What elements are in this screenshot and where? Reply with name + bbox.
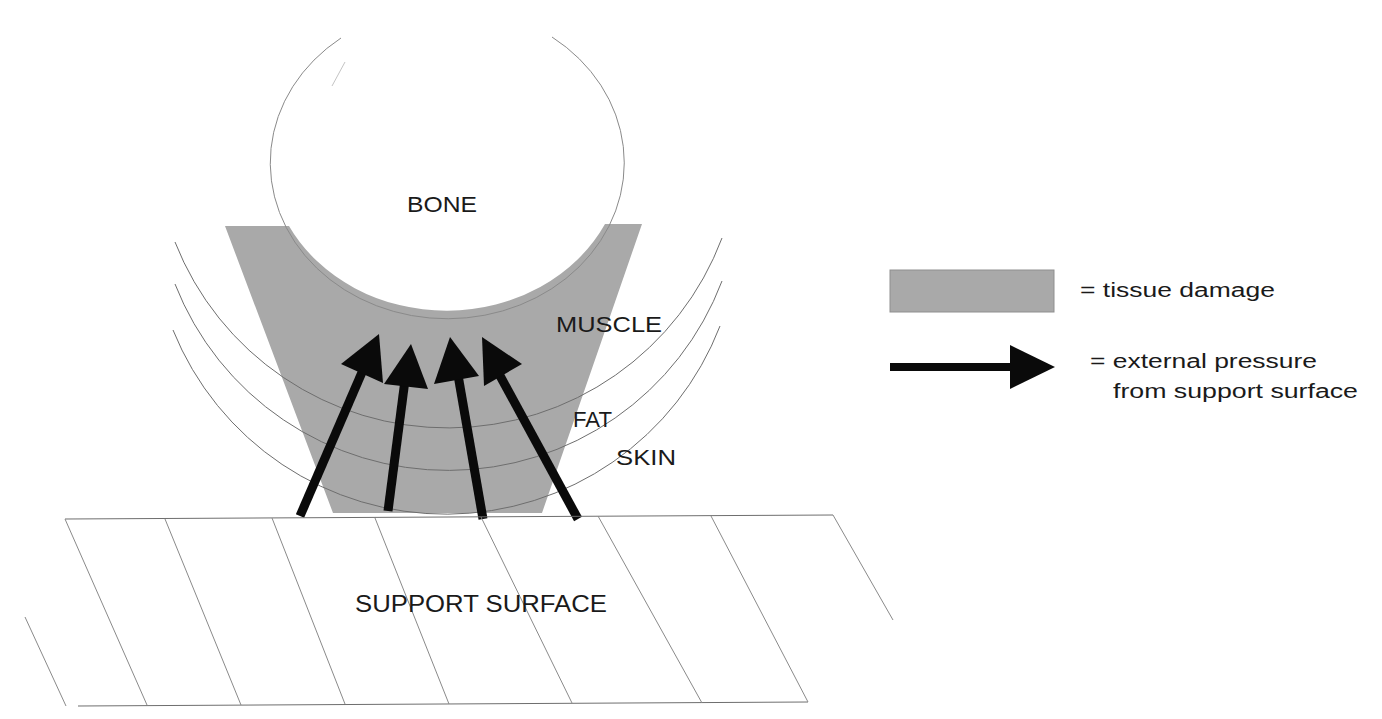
legend: = tissue damage = external pressure from… — [890, 270, 1358, 402]
legend-pressure-text-line1: = external pressure — [1090, 350, 1317, 372]
support-top-edge — [65, 515, 833, 519]
muscle-label: MUSCLE — [556, 312, 662, 337]
skin-label: SKIN — [616, 445, 676, 470]
legend-tissue-damage-text: = tissue damage — [1080, 279, 1275, 301]
support-bottom-edge — [78, 702, 808, 706]
legend-item-tissue-damage: = tissue damage — [890, 270, 1275, 312]
pressure-damage-diagram: BONE MUSCLE FAT SKIN SUPPORT SURFACE = t… — [0, 0, 1382, 719]
bone-stray-stroke — [332, 62, 345, 86]
legend-pressure-text-line2: from support surface — [1113, 380, 1358, 402]
legend-item-external-pressure: = external pressure from support surface — [890, 345, 1358, 402]
bone-label: BONE — [407, 192, 477, 217]
support-surface-label: SUPPORT SURFACE — [355, 590, 607, 617]
tissue-damage-swatch — [890, 270, 1054, 312]
fat-label: FAT — [573, 407, 612, 432]
legend-arrow-icon — [1010, 345, 1055, 389]
